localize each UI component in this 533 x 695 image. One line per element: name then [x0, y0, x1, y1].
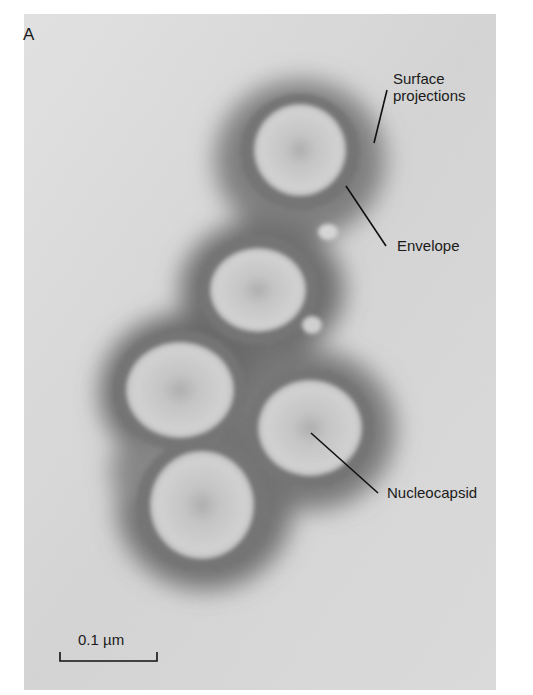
virion-illustration: [24, 14, 496, 690]
scale-bar-label: 0.1 µm: [78, 631, 124, 648]
label-nucleocapsid-text: Nucleocapsid: [387, 484, 477, 501]
label-envelope-text: Envelope: [397, 237, 460, 254]
micrograph-photo: [24, 14, 496, 690]
panel-label: A: [23, 25, 34, 45]
label-nucleocapsid: Nucleocapsid: [387, 484, 477, 501]
label-envelope: Envelope: [397, 237, 460, 254]
label-surface-line1: Surface: [393, 70, 466, 87]
label-surface-line2: projections: [393, 87, 466, 104]
label-surface-projections: Surface projections: [393, 70, 466, 104]
